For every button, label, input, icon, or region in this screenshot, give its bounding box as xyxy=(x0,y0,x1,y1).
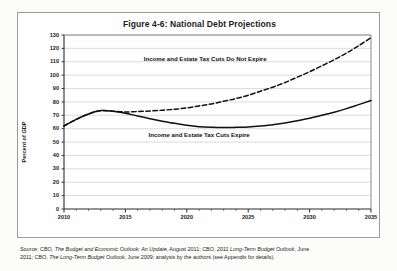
figure-source-note: Source: CBO, The Budget and Economic Out… xyxy=(20,245,380,261)
series-annotation-label: Income and Estate Tax Cuts Expire xyxy=(149,131,250,138)
figure-container: Figure 4-6: National Debt Projections Pe… xyxy=(17,12,380,238)
y-axis-tick-label: 90 xyxy=(39,85,59,91)
series-annotation-label: Income and Estate Tax Cuts Do Not Expire xyxy=(144,55,267,62)
y-axis-tick-label: 40 xyxy=(39,152,59,158)
y-axis-tick-label: 30 xyxy=(39,165,59,171)
y-axis-tick-label: 80 xyxy=(39,99,59,105)
y-axis-tick-label: 10 xyxy=(39,192,59,198)
y-axis-tick-label: 120 xyxy=(39,45,59,51)
y-axis-tick-label: 50 xyxy=(39,139,59,145)
x-axis-tick-label: 2015 xyxy=(110,214,140,220)
chart-plot-area: Percent of GDP 0102030405060708090100110… xyxy=(18,13,381,239)
x-axis-tick-label: 2035 xyxy=(356,214,386,220)
x-axis-tick-label: 2010 xyxy=(49,214,79,220)
y-axis-title: Percent of GDP xyxy=(21,105,27,179)
source-note-line-1: Source: CBO, The Budget and Economic Out… xyxy=(20,246,309,252)
scanned-page: Figure 4-6: National Debt Projections Pe… xyxy=(0,0,397,271)
source-note-line-2: 2011; CBO, The Long-Term Budget Outlook,… xyxy=(20,254,275,260)
y-axis-tick-label: 110 xyxy=(39,58,59,64)
y-axis-tick-label: 100 xyxy=(39,72,59,78)
y-axis-tick-label: 60 xyxy=(39,125,59,131)
y-axis-tick-label: 0 xyxy=(39,206,59,212)
series-line-tax-cuts-expire xyxy=(64,101,371,128)
x-axis-tick-label: 2025 xyxy=(233,214,263,220)
y-axis-tick-label: 20 xyxy=(39,179,59,185)
x-axis-tick-label: 2020 xyxy=(172,214,202,220)
y-axis-tick-label: 70 xyxy=(39,112,59,118)
line-chart xyxy=(18,13,381,239)
y-axis-tick-label: 130 xyxy=(39,32,59,38)
x-axis-tick-label: 2030 xyxy=(295,214,325,220)
series-line-tax-cuts-do-not-expire xyxy=(64,38,371,126)
